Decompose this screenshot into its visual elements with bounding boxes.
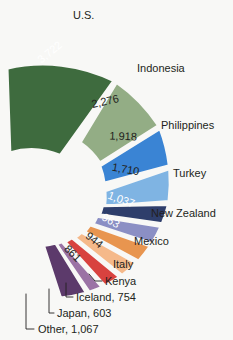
category-label-turkey: Turkey: [173, 167, 207, 179]
category-label-philippines: Philippines: [161, 119, 215, 131]
donut-chart: 3,722 2,276 1,918 1,710 1,037 963 944 86…: [0, 0, 233, 340]
category-label-us: U.S.: [73, 9, 94, 21]
category-label-mexico: Mexico: [134, 235, 169, 247]
category-label-indonesia: Indonesia: [137, 62, 186, 74]
category-label-new-zealand: New Zealand: [151, 207, 216, 219]
category-label-kenya: Kenya: [105, 275, 137, 287]
category-label-other: Other, 1,067: [38, 323, 99, 335]
value-label-philippines: 1,918: [109, 130, 137, 143]
category-label-japan: Japan, 603: [57, 307, 111, 319]
category-label-italy: Italy: [113, 258, 134, 270]
chart-svg: 3,722 2,276 1,918 1,710 1,037 963 944 86…: [0, 0, 233, 340]
category-label-iceland: Iceland, 754: [76, 291, 136, 303]
